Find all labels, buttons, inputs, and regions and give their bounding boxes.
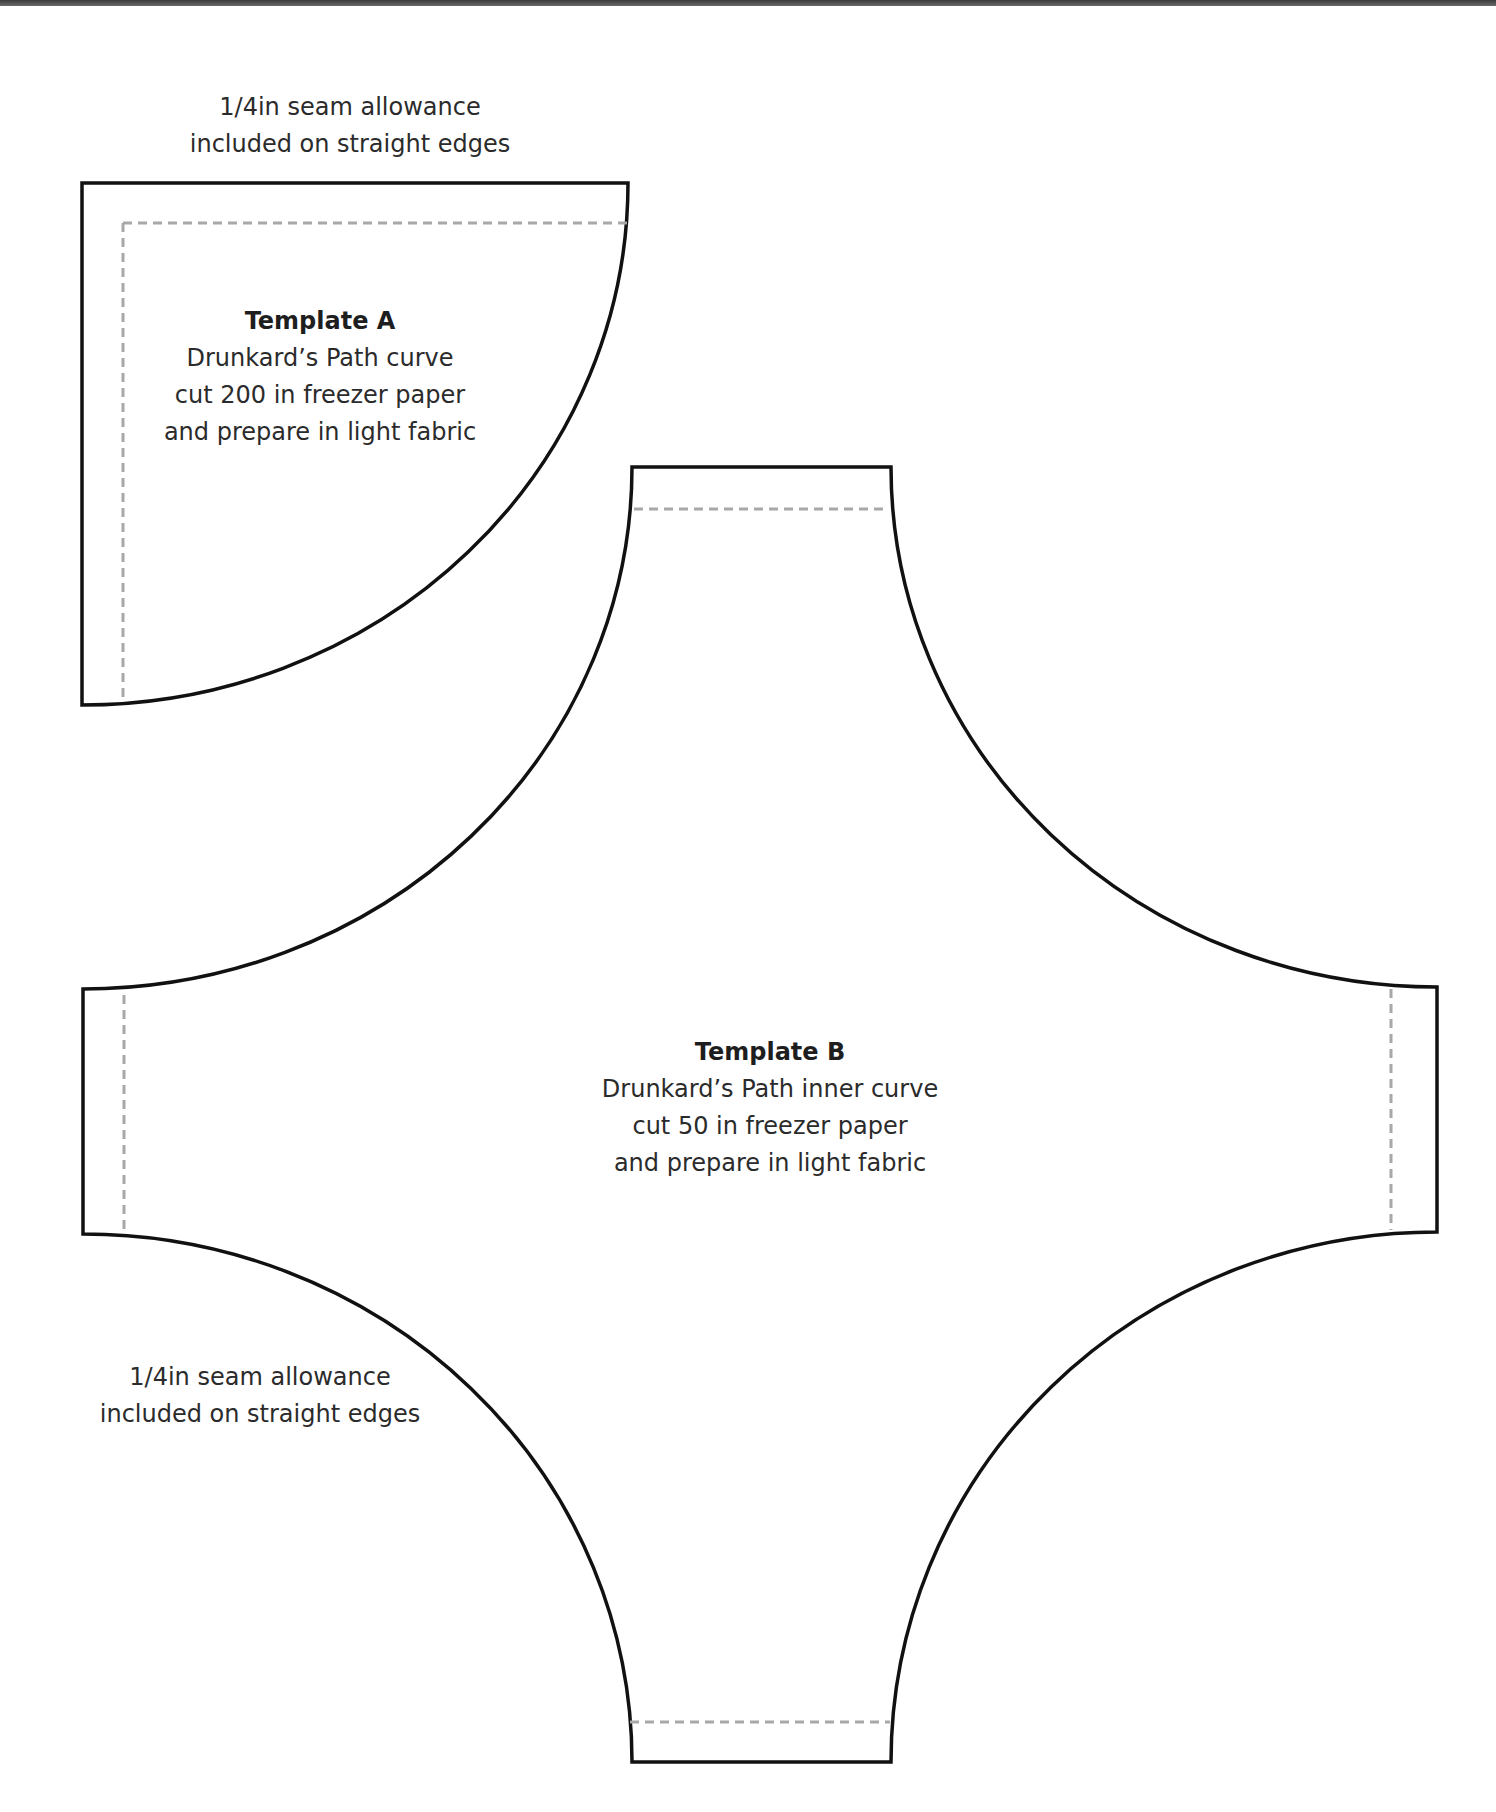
seam-note-bottom-left-line2: included on straight edges — [60, 1396, 460, 1433]
template-b-title: Template B — [570, 1034, 970, 1071]
template-a-label: Template A Drunkard’s Path curve cut 200… — [150, 303, 490, 451]
template-b-description-line3: and prepare in light fabric — [570, 1145, 970, 1182]
template-b-description-line2: cut 50 in freezer paper — [570, 1108, 970, 1145]
seam-note-top: 1/4in seam allowance included on straigh… — [150, 89, 550, 163]
seam-note-top-line1: 1/4in seam allowance — [150, 89, 550, 126]
template-a-title: Template A — [150, 303, 490, 340]
templates-drawing — [0, 0, 1496, 1812]
template-b-label: Template B Drunkard’s Path inner curve c… — [570, 1034, 970, 1182]
template-a-description-line1: Drunkard’s Path curve — [150, 340, 490, 377]
template-a-description-line2: cut 200 in freezer paper — [150, 377, 490, 414]
seam-note-top-line2: included on straight edges — [150, 126, 550, 163]
template-a-description-line3: and prepare in light fabric — [150, 414, 490, 451]
template-b-description-line1: Drunkard’s Path inner curve — [570, 1071, 970, 1108]
seam-note-bottom-left-line1: 1/4in seam allowance — [60, 1359, 460, 1396]
seam-note-bottom-left: 1/4in seam allowance included on straigh… — [60, 1359, 460, 1433]
